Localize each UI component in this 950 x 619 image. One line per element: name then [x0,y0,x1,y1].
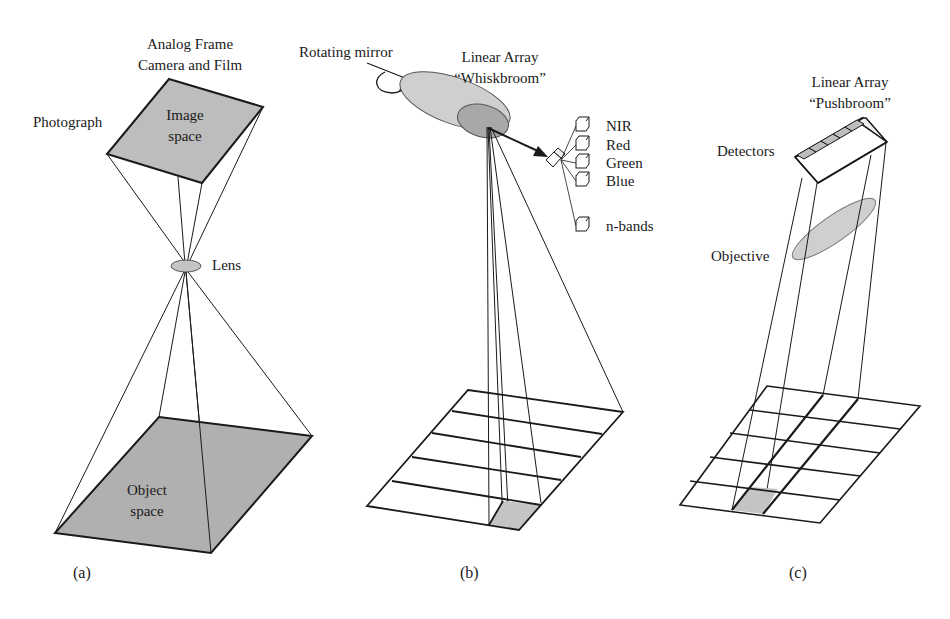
object-space-label-2: space [117,503,177,520]
panel-b-title-line2: “Whiskbroom” [440,70,560,87]
objective-label: Objective [711,248,769,265]
band-label-blue: Blue [606,173,634,190]
band-label-green: Green [606,155,643,172]
panel-a-title-line1: Analog Frame [100,36,280,53]
pushbroom-ground-grid [680,386,920,523]
arrow-to-detectors-icon [533,146,548,157]
objective-lens [786,190,883,269]
band-cube-red-icon [576,136,589,150]
panel-b-caption: (b) [460,564,479,582]
detectors-label: Detectors [717,143,774,160]
panel-a-frame-camera [55,79,312,553]
panel-c-title-line1: Linear Array [790,74,910,91]
panel-a-title-line2: Camera and Film [100,57,280,74]
band-label-nir: NIR [606,118,632,135]
sensor-diagram [0,0,950,619]
band-cube-nir-icon [576,117,589,131]
rotating-mirror-label: Rotating mirror [299,44,393,61]
panel-c-caption: (c) [789,564,807,582]
whiskbroom-ground-grid [367,390,623,530]
band-label-red: Red [606,137,630,154]
panel-c-title-line2: “Pushbroom” [790,95,910,112]
panel-b-title-line1: Linear Array [440,49,560,66]
image-space-label-2: space [155,128,215,145]
photograph-label: Photograph [33,114,102,131]
band-label-n-bands: n-bands [606,218,654,235]
lens-label: Lens [212,257,241,274]
object-space-plane [55,417,312,553]
panel-b-whiskbroom [367,60,623,530]
band-cube-n-bands-icon [576,217,589,231]
lens-icon [171,260,201,272]
panel-c-pushbroom [680,118,920,523]
band-cube-blue-icon [576,172,589,186]
object-space-label-1: Object [117,482,177,499]
panel-a-caption: (a) [73,564,91,582]
image-space-label-1: Image [155,107,215,124]
band-cube-green-icon [576,154,589,168]
